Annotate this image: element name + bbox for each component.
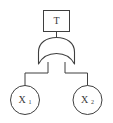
basic-event-1-label: X: [18, 94, 26, 105]
top-event-label: T: [53, 15, 59, 26]
fault-tree-diagram: T X 1 X 2: [0, 0, 113, 123]
basic-event-2-label: X: [81, 94, 89, 105]
basic-event-2-subscript: 2: [91, 99, 94, 105]
or-gate-symbol[interactable]: [39, 38, 75, 65]
basic-event-1-subscript: 1: [29, 99, 32, 105]
edge-gate-to-basic-event-2: [65, 62, 88, 86]
edge-gate-to-basic-event-1: [25, 62, 48, 86]
fault-tree-canvas: T X 1 X 2: [0, 0, 113, 123]
